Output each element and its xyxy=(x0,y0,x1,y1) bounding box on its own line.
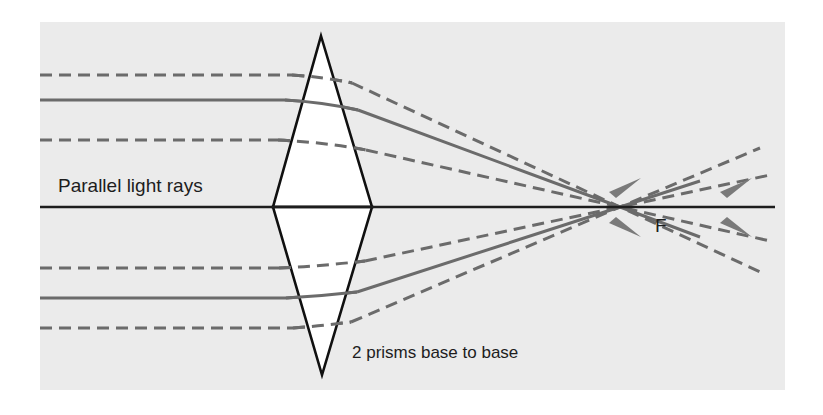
parallel-light-rays-label: Parallel light rays xyxy=(58,175,203,196)
ray-diagram: Parallel light rays 2 prisms base to bas… xyxy=(0,0,823,415)
focal-point-label: F xyxy=(655,215,667,236)
prisms-base-to-base-label: 2 prisms base to base xyxy=(352,343,518,362)
figure-root: Parallel light rays 2 prisms base to bas… xyxy=(0,0,823,415)
